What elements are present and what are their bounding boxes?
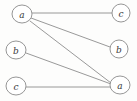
graph-edge-left-a-to-right-b [31,18,110,47]
node-label-right-b: b [116,45,122,55]
graph-node-left-c[interactable]: c [6,77,26,95]
graph-edge-left-a-to-right-a [30,21,111,83]
edges-layer [26,13,112,87]
graph-node-right-a[interactable]: a [110,76,130,94]
graph-node-right-b[interactable]: b [110,40,128,58]
node-label-left-c: c [13,82,18,92]
graph-node-left-a[interactable]: a [12,5,32,23]
nodes-layer: abccba [6,4,130,95]
node-label-right-a: a [117,81,122,91]
graph-edge-left-b-to-right-a [26,53,111,84]
graph-canvas: abccba [0,0,137,101]
node-label-right-c: c [118,9,123,19]
graph-diagram: abccba [0,0,137,101]
node-label-left-a: a [19,10,24,20]
node-label-left-b: b [13,46,19,56]
graph-node-left-b[interactable]: b [6,41,26,59]
graph-node-right-c[interactable]: c [112,4,130,22]
